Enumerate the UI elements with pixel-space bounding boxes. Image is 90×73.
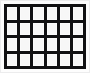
grid-cell-r2-c1[interactable]	[7, 23, 17, 36]
grid-cell-r3-c1[interactable]	[7, 38, 17, 51]
grid-cell-r4-c5[interactable]	[60, 54, 70, 67]
grid-cell-r4-c4[interactable]	[47, 54, 57, 67]
grid-cell-r2-c6[interactable]	[73, 23, 83, 36]
grid-cell-r1-c5[interactable]	[60, 7, 70, 20]
grid-cell-r1-c2[interactable]	[20, 7, 30, 20]
grid-cell-r2-c4[interactable]	[47, 23, 57, 36]
grid-cell-r3-c4[interactable]	[47, 38, 57, 51]
grid-cell-r4-c2[interactable]	[20, 54, 30, 67]
grid-cell-r3-c3[interactable]	[33, 38, 43, 51]
grid-cell-r1-c3[interactable]	[33, 7, 43, 20]
grid-cell-r1-c6[interactable]	[73, 7, 83, 20]
grid-cell-r3-c6[interactable]	[73, 38, 83, 51]
grid-cell-r1-c4[interactable]	[47, 7, 57, 20]
grid-cell-r2-c2[interactable]	[20, 23, 30, 36]
grid-cell-r4-c6[interactable]	[73, 54, 83, 67]
grid-cell-r4-c1[interactable]	[7, 54, 17, 67]
grid-cell-r4-c3[interactable]	[33, 54, 43, 67]
grid-cell-r3-c5[interactable]	[60, 38, 70, 51]
grid-cell-r2-c5[interactable]	[60, 23, 70, 36]
grid-cell-r1-c1[interactable]	[7, 7, 17, 20]
grid-cell-r2-c3[interactable]	[33, 23, 43, 36]
table-grid-icon[interactable]	[4, 4, 86, 69]
icon-canvas	[0, 0, 90, 73]
grid-cell-r3-c2[interactable]	[20, 38, 30, 51]
